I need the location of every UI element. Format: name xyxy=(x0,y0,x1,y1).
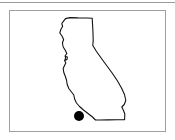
map-canvas xyxy=(0,0,175,140)
figure-root: California state outline with location m… xyxy=(0,0,175,140)
location-marker-dot[interactable] xyxy=(74,111,84,121)
san-francisco-bay-detail xyxy=(65,56,67,60)
california-state-outline xyxy=(60,18,126,120)
